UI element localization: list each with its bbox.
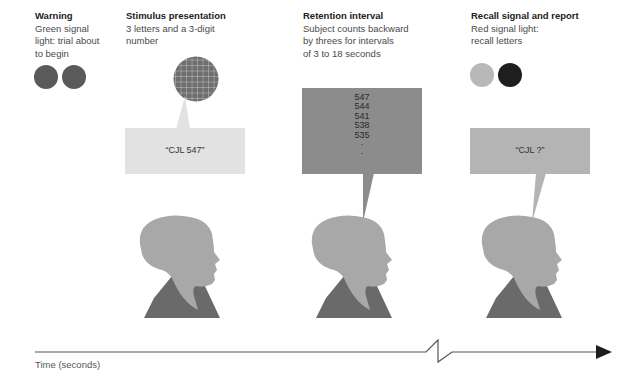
stage-retention: Retention interval Subject counts backwa… [303,10,409,60]
timeline-label: Time (seconds) [35,359,100,370]
stage-description: 3 letters and a 3-digit number [126,23,226,48]
counting-list: 547 544 541 538 535 · · [302,93,422,159]
recall-pointer [532,173,546,222]
stimulus-pointer [176,96,190,129]
warning-light-right [62,65,86,89]
stage-title: Stimulus presentation [126,10,226,23]
stage-description: Red signal light: recall letters [471,23,579,48]
stage-description: Subject counts backward by threes for in… [303,23,409,61]
recall-speech-text: “CJL ?” [470,145,590,155]
stage-description: Green signal light: trial about to begin [35,23,99,61]
timeline-axis [35,340,600,362]
stage-recall: Recall signal and report Red signal ligh… [471,10,579,48]
warning-light-left [34,65,58,89]
count-ellipsis: · [302,149,422,158]
timeline-arrowhead [596,345,612,359]
stage-stimulus: Stimulus presentation 3 letters and a 3-… [126,10,226,48]
recall-light-on [498,63,522,87]
stimulus-speech-text: “CJL 547” [125,145,245,155]
stimulus-grid-display [174,57,219,102]
stage-warning: Warning Green signal light: trial about … [35,10,99,60]
stage-title: Recall signal and report [471,10,579,23]
retention-pointer [363,173,374,222]
subject-head-retention [312,215,392,318]
subject-head-recall [482,215,562,318]
stage-title: Warning [35,10,99,23]
stage-title: Retention interval [303,10,409,23]
subject-head-stimulus [140,215,220,318]
recall-light-off [470,63,494,87]
